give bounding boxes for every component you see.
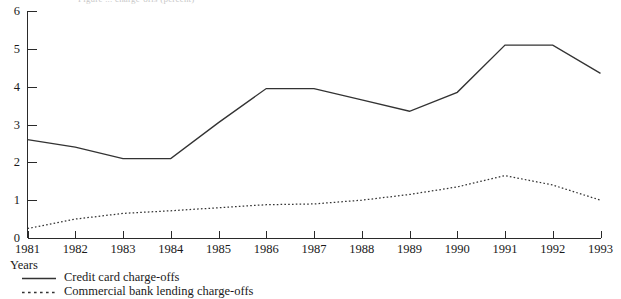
x-tick-label: 1985: [196, 243, 242, 256]
x-tick-label: 1984: [148, 243, 194, 256]
y-tick-label: 1: [4, 194, 20, 207]
x-tick-label: 1983: [100, 243, 146, 256]
x-tick-label: 1986: [243, 243, 289, 256]
x-tick-label: 1982: [52, 243, 98, 256]
legend-swatch-dotted-line-icon: [22, 287, 56, 297]
y-tick-label: 2: [4, 156, 20, 169]
series-line-credit-card-charge-offs: [28, 45, 601, 159]
x-tick-label: 1981: [5, 243, 51, 256]
x-tick-label: 1992: [530, 243, 576, 256]
x-tick-label: 1991: [482, 243, 528, 256]
y-tick-label: 5: [4, 43, 20, 56]
legend-label: Credit card charge-offs: [64, 270, 179, 285]
y-axis-ticks: [28, 12, 37, 239]
x-tick-label: 1989: [387, 243, 433, 256]
y-tick-label: 6: [4, 5, 20, 18]
chart-legend: Credit card charge-offs Commercial bank …: [22, 271, 253, 299]
x-tick-label: 1993: [578, 243, 621, 256]
legend-item-credit-card-charge-offs: Credit card charge-offs: [22, 271, 253, 284]
y-tick-label: 4: [4, 81, 20, 94]
x-tick-label: 1990: [434, 243, 480, 256]
series-line-commercial-bank-lending-charge-offs: [28, 176, 601, 229]
legend-swatch-solid-line-icon: [22, 273, 56, 283]
x-tick-label: 1987: [291, 243, 337, 256]
y-tick-label: 3: [4, 119, 20, 132]
legend-item-commercial-bank-lending-charge-offs: Commercial bank lending charge-offs: [22, 285, 253, 298]
x-tick-label: 1988: [339, 243, 385, 256]
legend-label: Commercial bank lending charge-offs: [64, 284, 253, 299]
x-axis-ticks: [29, 231, 602, 238]
